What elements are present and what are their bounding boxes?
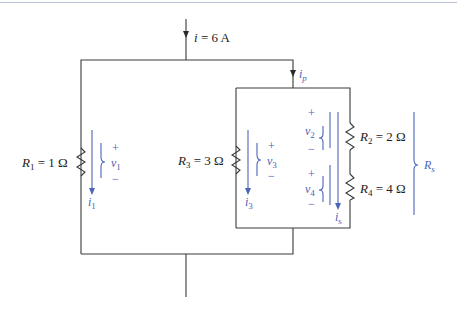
v2-label: v2 [305,124,315,140]
v3-label: v3 [267,154,277,170]
resistor-r2-icon [346,123,354,150]
v4-brace [319,176,323,202]
outer-bottom-wire [81,228,293,254]
v1-plus: + [112,141,119,155]
v1-minus: − [112,172,119,186]
i1-arrow-icon [89,188,95,195]
rs-brace [414,112,418,215]
r4-label: R4 = 4 Ω [359,181,406,198]
v1-label: v1 [111,156,121,172]
v3-brace [257,143,261,176]
ip-arrow-icon [290,70,296,77]
v1-brace [101,143,105,178]
v2-minus: − [308,142,315,156]
is-arrow-icon [335,203,341,210]
inner-top-wire [236,88,350,123]
ip-label: ip [299,67,307,83]
source-current-arrow-icon [183,31,189,38]
v3-plus: + [268,139,275,153]
rs-label: Rs [423,158,435,174]
v4-label: v4 [305,182,315,198]
v2-plus: + [308,106,315,120]
inner-bottom-wire [236,200,350,228]
v4-plus: + [308,167,315,181]
r2-label: R2 = 2 Ω [359,129,406,146]
resistor-r4-icon [346,174,354,200]
i1-label: i1 [88,195,96,211]
i3-arrow-icon [245,188,251,195]
source-current-label: i = 6 A [194,30,231,45]
is-label: is [335,210,342,226]
v4-minus: − [308,197,315,211]
i3-label: i3 [245,195,253,211]
r3-label: R3 = 3 Ω [177,153,224,170]
v3-minus: − [268,169,275,183]
v2-brace [319,126,323,150]
r1-label: R1 = 1 Ω [21,155,68,172]
circuit-diagram: i = 6 A ip R1 = 1 Ω i1 + v1 − R3 = 3 Ω i… [0,0,457,313]
